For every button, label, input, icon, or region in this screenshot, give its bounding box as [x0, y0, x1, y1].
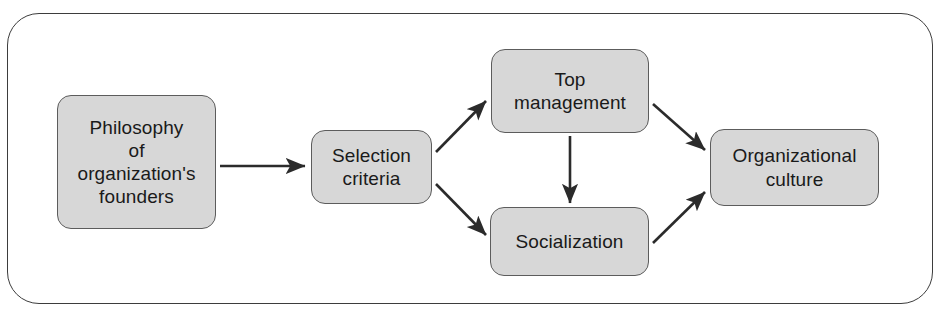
node-top-management: Top management	[491, 49, 649, 133]
diagram-canvas: Philosophy of organization's founders Se…	[0, 0, 943, 321]
node-organizational-culture: Organizational culture	[710, 129, 879, 206]
node-selection-criteria: Selection criteria	[311, 130, 432, 204]
node-socialization: Socialization	[490, 207, 649, 276]
node-philosophy-of-organizations-founders: Philosophy of organization's founders	[57, 95, 216, 229]
